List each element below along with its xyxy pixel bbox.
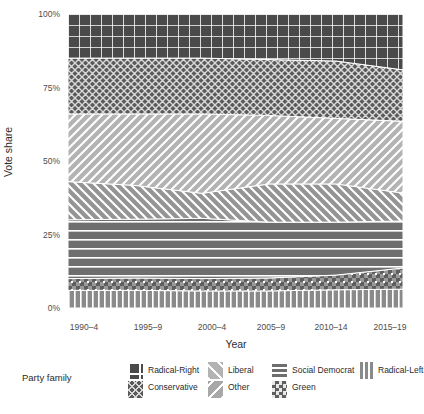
y-tick-25: 25% [43,230,60,240]
y-tick-75: 75% [43,83,60,93]
legend-title: Party family [22,372,72,383]
x-axis-tick-labels: 1990–4 1995–9 2000–4 2005–9 2010–14 2015… [0,322,424,336]
legend-group-1: Radical-Right Conservative [128,360,208,402]
legend-group-4: Radical-Left [358,360,424,402]
legend-swatch-liberal [208,362,223,379]
chart-figure: Vote share 100% 75% 50% 25% 0% [0,0,424,414]
legend-swatch-radical-left [358,362,373,379]
y-axis-tick-labels: 100% 75% 50% 25% 0% [18,0,60,414]
legend-label-radical-right: Radical-Right [148,365,199,375]
legend-swatch-conservative [128,381,143,398]
x-tick-1995-9: 1995–9 [134,322,162,332]
y-tick-100: 100% [38,9,60,19]
x-tick-2000-4: 2000–4 [198,322,226,332]
legend-group-3: Social Democrat Green [272,360,368,402]
legend-swatch-social-democrat [272,362,287,379]
legend-label-radical-left: Radical-Left [378,365,423,375]
area-band-conservative [68,58,403,121]
legend-label-other: Other [228,382,249,392]
plot-area [68,14,403,308]
x-axis-label: Year [225,338,246,350]
area-band-social-democrat [68,218,403,278]
x-tick-1990-4: 1990–4 [70,322,98,332]
legend-swatch-radical-right [128,362,143,379]
x-tick-2010-14: 2010–14 [314,322,347,332]
x-tick-2015-19: 2015–19 [373,322,406,332]
y-axis-label: Vote share [2,127,14,177]
legend-swatch-other [208,381,223,398]
stacked-area-svg [68,14,403,308]
legend-label-conservative: Conservative [148,382,198,392]
legend-label-green: Green [292,382,316,392]
legend: Party family Radical-Right Conservative … [0,358,424,406]
x-tick-2005-9: 2005–9 [257,322,285,332]
legend-label-liberal: Liberal [228,365,254,375]
legend-group-2: Liberal Other [208,360,280,402]
y-tick-0: 0% [48,303,60,313]
area-band-liberal [68,114,403,193]
legend-swatch-green [272,381,287,398]
legend-label-social-democrat: Social Democrat [292,365,354,375]
y-tick-50: 50% [43,156,60,166]
area-band-radical-left [68,289,403,308]
